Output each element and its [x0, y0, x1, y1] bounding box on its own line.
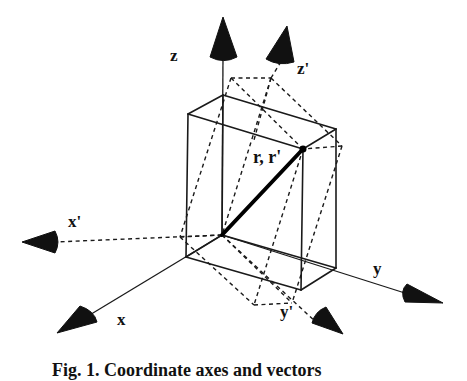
vector-label: r, r' — [253, 148, 281, 166]
box-edge — [186, 114, 188, 257]
figure-caption: Fig. 1. Coordinate axes and vectors — [52, 360, 321, 381]
box-edge — [223, 95, 336, 129]
z-prime-axis-label: z' — [297, 60, 309, 77]
vector-tip-dot — [300, 146, 307, 153]
z-axis-label: z — [170, 47, 178, 64]
x-prime-axis-label: x' — [68, 213, 81, 230]
x-axis-label: x — [117, 311, 126, 328]
x-arrowhead-cone-icon — [57, 306, 97, 333]
y-prime-arrowhead-cone-icon — [312, 307, 343, 334]
x-prime-arrowhead-cone-icon — [22, 231, 58, 253]
axes-group — [22, 17, 443, 334]
rotated-box-edge — [180, 237, 254, 305]
x-prime-axis-line — [55, 235, 222, 242]
box-edge — [186, 257, 301, 290]
x-axis-line — [88, 235, 222, 316]
box-edge — [301, 268, 336, 290]
box-edge — [303, 129, 336, 149]
y-arrowhead-cone-icon — [403, 284, 443, 303]
y-prime-axis-label: y' — [280, 303, 293, 320]
z-prime-arrowhead-cone-icon — [266, 26, 294, 64]
y-axis-label: y — [373, 260, 382, 277]
z-arrowhead-cone-icon — [210, 17, 237, 61]
box-edge — [188, 95, 223, 114]
